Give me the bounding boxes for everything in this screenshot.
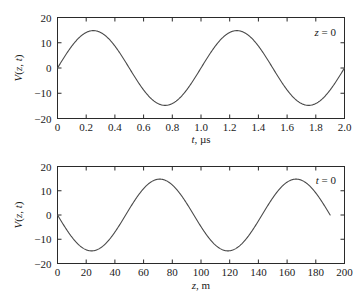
data-curve-bottom: [58, 179, 331, 251]
plot-top-svg: 00.20.40.60.81.01.21.41.61.82.0 −20−1001…: [0, 0, 361, 150]
x-axis-title-bottom: z, m: [191, 279, 211, 291]
plot-bottom-svg: 020406080100120140160180200 −20−1001020 …: [0, 150, 361, 300]
y-tick-label: 0: [46, 209, 52, 221]
y-axis-title-top: V(z, t): [12, 54, 25, 81]
x-tick-label: 2.0: [338, 121, 352, 133]
x-tick-label: 200: [336, 266, 353, 278]
x-tick-label: 0.6: [137, 121, 151, 133]
x-tick-label: 140: [250, 266, 267, 278]
x-tick-label: 0.2: [79, 121, 93, 133]
x-tick-label: 160: [279, 266, 296, 278]
x-tick-label: 60: [138, 266, 150, 278]
x-tick-label: 40: [109, 266, 121, 278]
x-axis-title-top: t, µs: [191, 133, 210, 145]
y-tick-label: −10: [34, 87, 52, 99]
y-tick-label: −20: [34, 258, 52, 270]
x-tick-label: 80: [167, 266, 179, 278]
x-tick-label: 0.8: [165, 121, 179, 133]
annotation-bottom-rest: = 0: [319, 174, 337, 186]
y-tick-label: −10: [34, 233, 52, 245]
y-axis-title-bottom-close: ): [12, 201, 25, 205]
y-tick-label: 20: [41, 161, 53, 173]
x-tick-label: 180: [308, 266, 325, 278]
x-axis-title-top-rest: , µs: [194, 133, 210, 145]
x-tick-label: 0: [55, 121, 61, 133]
x-tick-label: 1.2: [223, 121, 237, 133]
annotation-bottom: t = 0: [316, 174, 337, 186]
annotation-top-rest: = 0: [319, 26, 337, 38]
x-tick-label: 0.4: [108, 121, 122, 133]
y-tick-label: 0: [46, 62, 52, 74]
annotation-top: z = 0: [314, 26, 337, 38]
y-tick-label: −20: [34, 113, 52, 125]
chart-panel-top: 00.20.40.60.81.01.21.41.61.82.0 −20−1001…: [0, 0, 361, 150]
y-tick-label: 20: [41, 12, 53, 24]
y-tick-label: 10: [41, 185, 53, 197]
y-axis-title-bottom: V(z, t): [12, 201, 25, 228]
x-tick-label: 0: [55, 266, 61, 278]
x-tick-labels-bottom: 020406080100120140160180200: [55, 266, 354, 278]
x-tick-label: 120: [221, 266, 238, 278]
x-tick-label: 100: [193, 266, 210, 278]
x-axis-title-bottom-rest: , m: [196, 279, 211, 291]
x-tick-label: 1.8: [309, 121, 323, 133]
x-tick-labels-top: 00.20.40.60.81.01.21.41.61.82.0: [55, 121, 352, 133]
y-tick-label: 10: [41, 37, 53, 49]
y-axis-title-top-close: ): [12, 54, 25, 58]
y-tick-labels-top: −20−1001020: [34, 12, 52, 125]
data-curve-top: [58, 31, 345, 106]
plot-frame-bottom: [58, 167, 345, 264]
x-tick-label: 1.4: [252, 121, 266, 133]
y-tick-labels-bottom: −20−1001020: [34, 161, 52, 270]
x-tick-label: 1.0: [194, 121, 208, 133]
figure-two-panel-waveforms: 00.20.40.60.81.01.21.41.61.82.0 −20−1001…: [0, 0, 361, 300]
x-tick-label: 1.6: [280, 121, 294, 133]
x-tick-label: 20: [81, 266, 93, 278]
chart-panel-bottom: 020406080100120140160180200 −20−1001020 …: [0, 150, 361, 300]
axis-ticks-bottom: [58, 167, 345, 264]
